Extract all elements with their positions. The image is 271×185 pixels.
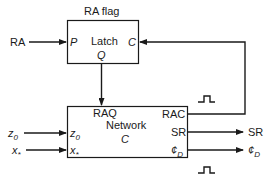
latch-title: RA flag xyxy=(84,5,119,17)
diagram-canvas xyxy=(0,0,271,185)
latch-port-c: C xyxy=(128,36,136,48)
network-output-rac: RAC xyxy=(162,108,185,120)
z0-input-label: z0 xyxy=(8,127,18,141)
latch-port-p: P xyxy=(70,36,77,48)
phid-output-label: ¢D xyxy=(248,144,260,158)
pulse-icon xyxy=(198,167,215,173)
rac-feedback-line xyxy=(140,42,245,114)
latch-port-q: Q xyxy=(97,49,106,61)
ra-input-label: RA xyxy=(10,36,25,48)
network-name: Network xyxy=(106,119,146,131)
raq-label: RAQ xyxy=(93,107,117,119)
network-input-z0: z0 xyxy=(70,127,80,141)
network-input-xstar: x* xyxy=(70,144,79,158)
latch-name: Latch xyxy=(91,35,118,47)
xstar-input-label: x* xyxy=(12,144,21,158)
sr-output-label: SR xyxy=(248,126,263,138)
network-id: C xyxy=(121,133,129,145)
pulse-icon xyxy=(198,96,215,102)
network-output-phid: ¢D xyxy=(171,144,183,158)
network-output-sr: SR xyxy=(171,126,186,138)
